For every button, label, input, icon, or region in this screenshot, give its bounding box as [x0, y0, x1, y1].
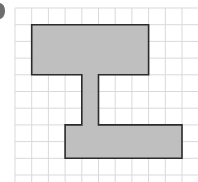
grid-figure [0, 0, 198, 182]
grid-diagram [0, 0, 198, 182]
